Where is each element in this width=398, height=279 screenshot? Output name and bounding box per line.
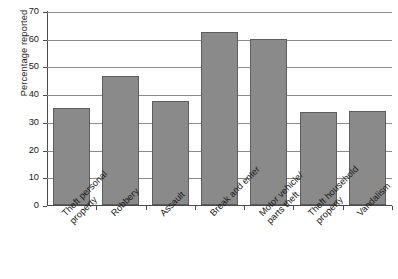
- y-tick-mark: [43, 12, 47, 13]
- y-tick-label: 30: [13, 118, 39, 127]
- y-tick-label: 10: [13, 173, 39, 182]
- bar: [152, 101, 189, 205]
- y-tick-mark: [43, 206, 47, 207]
- y-tick-label: 70: [13, 7, 39, 16]
- bar: [250, 39, 287, 205]
- bar: [201, 32, 238, 205]
- y-tick-mark: [43, 178, 47, 179]
- x-tick-mark: [392, 206, 393, 210]
- y-tick-mark: [43, 123, 47, 124]
- gridline: [47, 12, 392, 13]
- y-tick-label: 60: [13, 35, 39, 44]
- x-tick-mark: [96, 206, 97, 210]
- y-tick-mark: [43, 95, 47, 96]
- bar-chart: Percentage reported 010203040506070 Thef…: [0, 0, 398, 279]
- x-tick-mark: [293, 206, 294, 210]
- y-tick-label: 50: [13, 62, 39, 71]
- y-tick-mark: [43, 67, 47, 68]
- y-tick-mark: [43, 151, 47, 152]
- y-tick-label: 40: [13, 90, 39, 99]
- y-tick-label: 20: [13, 146, 39, 155]
- x-tick-mark: [244, 206, 245, 210]
- y-tick-mark: [43, 40, 47, 41]
- x-tick-mark: [195, 206, 196, 210]
- x-tick-mark: [146, 206, 147, 210]
- x-tick-mark: [343, 206, 344, 210]
- y-tick-label: 0: [13, 201, 39, 210]
